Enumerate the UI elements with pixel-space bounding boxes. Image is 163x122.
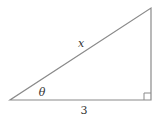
right-angle-marker bbox=[144, 93, 151, 100]
triangle-outline bbox=[10, 8, 151, 100]
angle-label: θ bbox=[39, 86, 46, 99]
right-triangle-diagram: x θ 3 bbox=[0, 0, 163, 122]
hypotenuse-label: x bbox=[78, 37, 85, 50]
base-label: 3 bbox=[81, 104, 88, 117]
